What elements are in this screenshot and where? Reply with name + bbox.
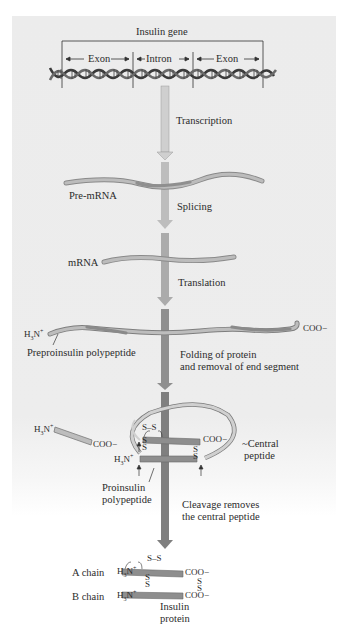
pre-mrna-label: Pre-mRNA	[69, 190, 117, 202]
insulin-s-pair-left: SS	[145, 574, 150, 588]
step-translation: Translation	[178, 277, 225, 289]
segment-intron: Intron	[146, 53, 172, 65]
segment-exon-2: Exon	[216, 53, 238, 65]
step-cleavage-line2: the central peptide	[182, 511, 260, 523]
insulin-disulfide-bond: S–S	[147, 552, 162, 564]
central-peptide-label-line2: peptide	[244, 450, 275, 462]
arrow-cleavage	[157, 392, 173, 549]
step-cleavage-line1: Cleavage removes	[182, 499, 259, 511]
central-peptide-label-line1: ~Central	[242, 438, 279, 450]
b-chain-c-terminus: COO−	[185, 589, 209, 601]
insulin-label-line1: Insulin	[160, 601, 189, 613]
proinsulin-s-pair-right: SS	[193, 446, 198, 460]
a-chain-n-terminus: H3N+	[117, 562, 136, 581]
proinsulin-n-terminus: H3N+	[114, 450, 133, 469]
mrna-label: mRNA	[68, 257, 98, 269]
segment-exon-1: Exon	[88, 53, 110, 65]
preproinsulin-c-terminus: COO−	[303, 322, 327, 334]
insulin-synthesis-diagram	[0, 0, 344, 634]
dna-double-helix	[50, 68, 276, 80]
segment-n-terminus: H3N+	[34, 420, 53, 439]
step-transcription: Transcription	[176, 115, 232, 127]
proinsulin-label-line2: polypeptide	[102, 494, 152, 506]
step-folding-line1: Folding of protein	[180, 349, 256, 361]
insulin-label-line2: protein	[160, 613, 190, 625]
segment-c-terminus: COO−	[93, 438, 117, 450]
proinsulin-label-line1: Proinsulin	[102, 482, 145, 494]
gene-title: Insulin gene	[136, 26, 188, 38]
arrow-splicing	[157, 162, 173, 229]
b-chain-n-terminus: H3N+	[117, 586, 136, 605]
preproinsulin-label: Preproinsulin polypeptide	[27, 347, 136, 359]
step-splicing: Splicing	[177, 201, 212, 213]
arrow-folding	[157, 309, 173, 390]
proinsulin-chains	[140, 437, 200, 462]
a-chain-label: A chain	[72, 567, 104, 579]
mrna-strand	[104, 257, 234, 262]
proinsulin-disulfide-bond: S–S	[142, 421, 157, 433]
arrow-translation	[157, 233, 173, 306]
proinsulin-pointer	[149, 468, 154, 482]
preproinsulin-pointer	[53, 334, 58, 345]
b-chain-label: B chain	[72, 591, 104, 603]
proinsulin-c-terminus: COO−	[203, 433, 227, 445]
removed-end-segment	[54, 427, 92, 445]
preproinsulin-strand	[50, 323, 297, 334]
step-folding-line2: and removal of end segment	[180, 361, 299, 373]
preproinsulin-n-terminus: H3N+	[24, 325, 43, 344]
proinsulin-s-pair-left: SS	[142, 437, 147, 451]
arrow-transcription	[157, 86, 173, 160]
